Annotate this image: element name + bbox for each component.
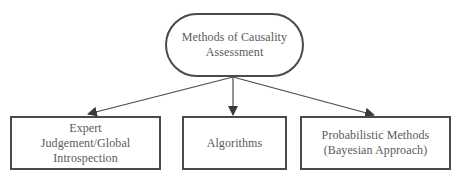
node-label: Methods of Causality Assessment (182, 30, 287, 60)
node-algorithms: Algorithms (182, 116, 287, 170)
diagram-canvas: Methods of Causality Assessment Expert J… (0, 0, 459, 182)
node-expert-judgement: Expert Judgement/Global Introspection (10, 116, 161, 170)
node-label: Probabilistic Methods (Bayesian Approach… (322, 128, 430, 158)
node-probabilistic-methods: Probabilistic Methods (Bayesian Approach… (300, 116, 451, 170)
node-methods-of-causality-assessment: Methods of Causality Assessment (165, 13, 304, 77)
node-label: Algorithms (207, 136, 263, 151)
edge-root-to-expert (88, 77, 233, 114)
edge-root-to-probabilistic (233, 77, 374, 115)
node-label: Expert Judgement/Global Introspection (41, 121, 131, 166)
